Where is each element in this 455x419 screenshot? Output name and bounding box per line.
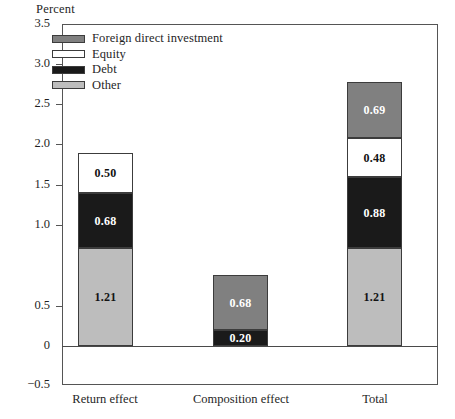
legend-item-label: Equity: [92, 47, 126, 62]
bar-segment-fdi: 0.69: [347, 82, 402, 138]
bar-segment-value: 0.20: [230, 332, 252, 344]
x-axis-label-composition-effect: Composition effect: [181, 392, 301, 407]
legend-item-equity: Equity: [52, 47, 223, 63]
y-tick-label: 3.5: [0, 16, 50, 31]
legend-item-debt: Debt: [52, 62, 223, 78]
bar-segment-value: 0.69: [364, 104, 386, 116]
zero-baseline: [62, 346, 438, 347]
y-tick-mark: [56, 144, 62, 145]
y-tick-label: 2.0: [0, 136, 50, 151]
bar-segment-debt: 0.68: [78, 193, 133, 248]
legend-item-other: Other: [52, 78, 223, 94]
y-tick-mark: [56, 225, 62, 226]
y-tick-label: 3.0: [0, 56, 50, 71]
y-tick-label: 0.5: [0, 298, 50, 313]
bar-segment-value: 0.68: [230, 297, 252, 309]
y-axis-title: Percent: [36, 2, 75, 17]
bar-segment-debt: 0.20: [213, 330, 268, 346]
y-tick-label: 1.5: [0, 177, 50, 192]
y-tick-mark: [56, 185, 62, 186]
bar-segment-value: 1.21: [95, 291, 117, 303]
bar-segment-value: 0.68: [95, 215, 117, 227]
legend-swatch-icon: [52, 66, 85, 74]
bar-segment-value: 0.48: [364, 152, 386, 164]
y-tick-label: 0: [0, 338, 50, 353]
x-axis-label-return-effect: Return effect: [45, 392, 165, 407]
bar-segment-equity: 0.48: [347, 138, 402, 177]
legend-item-label: Foreign direct investment: [92, 31, 223, 46]
bar-segment-equity: 0.50: [78, 153, 133, 193]
y-tick-mark: [56, 104, 62, 105]
y-tick-mark: [56, 306, 62, 307]
bar-segment-debt: 0.88: [347, 177, 402, 248]
bar-segment-other: 1.21: [78, 248, 133, 346]
legend-swatch-icon: [52, 35, 85, 43]
y-tick-label: 2.5: [0, 96, 50, 111]
legend-item-label: Other: [92, 78, 121, 93]
bar-segment-value: 1.21: [364, 291, 386, 303]
legend-item-label: Debt: [92, 62, 117, 77]
bar-segment-other: 1.21: [347, 248, 402, 346]
bar-segment-fdi: 0.68: [213, 275, 268, 330]
y-tick-label: 1.0: [0, 217, 50, 232]
bar-segment-value: 0.50: [95, 167, 117, 179]
legend-item-fdi: Foreign direct investment: [52, 31, 223, 47]
x-axis-label-total: Total: [315, 392, 435, 407]
legend-swatch-icon: [52, 81, 85, 89]
stacked-bar-chart: Percent 3.5 3.0 2.5 2.0 1.5 1.0 0.5 0 −0…: [0, 0, 455, 419]
y-tick-label: −0.5: [0, 377, 50, 392]
legend-swatch-icon: [52, 50, 85, 58]
bar-segment-value: 0.88: [364, 207, 386, 219]
chart-legend: Foreign direct investment Equity Debt Ot…: [52, 31, 223, 93]
